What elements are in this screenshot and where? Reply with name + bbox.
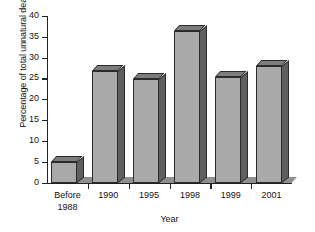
- bar-front-face: [174, 31, 200, 183]
- x-tick-label-line: 1999: [221, 190, 241, 200]
- x-tick-label: 2001: [251, 190, 292, 202]
- y-tick-label: 40: [29, 10, 39, 20]
- x-tick-label-line: 1988: [47, 202, 88, 214]
- x-tick-label-line: 2001: [262, 190, 282, 200]
- bar-side-face: [200, 25, 207, 183]
- bar-1995: [133, 79, 159, 183]
- bar-2001: [256, 66, 282, 183]
- x-tick-label-line: 1995: [139, 190, 159, 200]
- x-tick: [210, 184, 211, 189]
- x-tick: [129, 184, 130, 189]
- x-tick: [88, 184, 89, 189]
- bar-chart: Percentage of total unnatural deaths 051…: [0, 0, 315, 232]
- bar-side-face: [118, 65, 125, 183]
- x-tick-label: 1995: [129, 190, 170, 202]
- y-tick-label: 35: [29, 31, 39, 41]
- bar-front-face: [215, 77, 241, 183]
- bar-1999: [215, 77, 241, 183]
- x-tick-label: 1990: [88, 190, 129, 202]
- bar-before-1988: [51, 162, 77, 183]
- x-tick-label: 1999: [210, 190, 251, 202]
- x-tick-label-line: Before: [54, 190, 81, 200]
- y-tick-label: 5: [34, 156, 39, 166]
- x-tick-label: 1998: [170, 190, 211, 202]
- y-tick-label: 10: [29, 135, 39, 145]
- bar-front-face: [256, 66, 282, 183]
- x-tick: [170, 184, 171, 189]
- bar-1990: [92, 71, 118, 183]
- y-tick-label: 20: [29, 93, 39, 103]
- bar-front-face: [51, 162, 77, 183]
- bar-side-face: [159, 73, 166, 183]
- bar-side-face: [241, 71, 248, 183]
- y-tick-label: 0: [34, 177, 39, 187]
- x-tick-label: Before1988: [47, 190, 88, 213]
- y-tick-label: 30: [29, 52, 39, 62]
- bar-front-face: [92, 71, 118, 183]
- y-tick-label: 25: [29, 72, 39, 82]
- x-axis-title: Year: [47, 214, 292, 224]
- bar-side-face: [282, 61, 289, 183]
- bar-front-face: [133, 79, 159, 183]
- y-tick-label: 15: [29, 114, 39, 124]
- y-axis-title: Percentage of total unnatural deaths: [18, 0, 28, 142]
- x-tick-label-line: 1998: [180, 190, 200, 200]
- x-tick-label-line: 1990: [98, 190, 118, 200]
- bar-1998: [174, 31, 200, 183]
- x-tick: [251, 184, 252, 189]
